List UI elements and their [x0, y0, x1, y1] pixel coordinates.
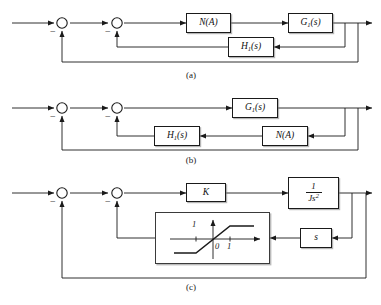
sign-minus-a1: − [50, 27, 56, 37]
sum-junction-a1 [57, 18, 67, 28]
block-label-g1-a: G1(s) [300, 18, 320, 28]
sum-junction-b1 [57, 103, 67, 113]
block-label-k: K [203, 188, 209, 198]
saturation-plot [156, 213, 271, 265]
block-plant-integrator: 1 Js2 [288, 177, 339, 209]
sign-minus-a2: − [105, 27, 111, 37]
block-label-s: s [314, 233, 318, 243]
block-feedback-h1-a: H1(s) [228, 37, 274, 57]
block-label-h1-b: H1(s) [167, 131, 187, 141]
block-label-na-b: N(A) [276, 131, 294, 141]
fraction-one-over-js2: 1 Js2 [306, 182, 322, 203]
block-describing-function-b: N(A) [262, 126, 308, 146]
caption-panel-a: (a) [171, 70, 211, 80]
caption-panel-b: (b) [171, 155, 211, 165]
sign-minus-b2: − [105, 112, 111, 122]
caption-panel-c: (c) [171, 282, 211, 292]
block-describing-function-a: N(A) [186, 13, 231, 33]
sum-junction-b2 [112, 103, 122, 113]
block-label-g1-b: G1(s) [245, 103, 265, 113]
sum-junction-c2 [112, 188, 122, 198]
block-gain-k: K [186, 183, 226, 202]
sign-minus-c1: − [50, 197, 56, 207]
block-plant-g1-b: G1(s) [232, 98, 278, 118]
fraction-numerator: 1 [311, 182, 316, 192]
sum-junction-a2 [112, 18, 122, 28]
figure-canvas: − − − − − − N(A) G1(s) H1(s) (a) G1(s) H… [0, 0, 381, 305]
block-label-na-a: N(A) [199, 18, 217, 28]
sat-x-tick-left-label: 1 [192, 219, 196, 229]
block-plant-g1-a: G1(s) [288, 13, 333, 33]
sat-origin-label: 0 [215, 241, 219, 251]
sign-minus-c2: − [105, 197, 111, 207]
saturation-nonlinearity-block: 1 1 0 [155, 212, 270, 264]
block-label-h1-a: H1(s) [241, 42, 261, 52]
block-feedback-h1-b: H1(s) [154, 126, 200, 146]
sum-junction-c1 [57, 188, 67, 198]
sat-x-tick-right-label: 1 [227, 241, 231, 251]
block-rate-feedback-s: s [300, 228, 332, 248]
sign-minus-b1: − [50, 112, 56, 122]
fraction-denominator: Js2 [308, 193, 319, 204]
